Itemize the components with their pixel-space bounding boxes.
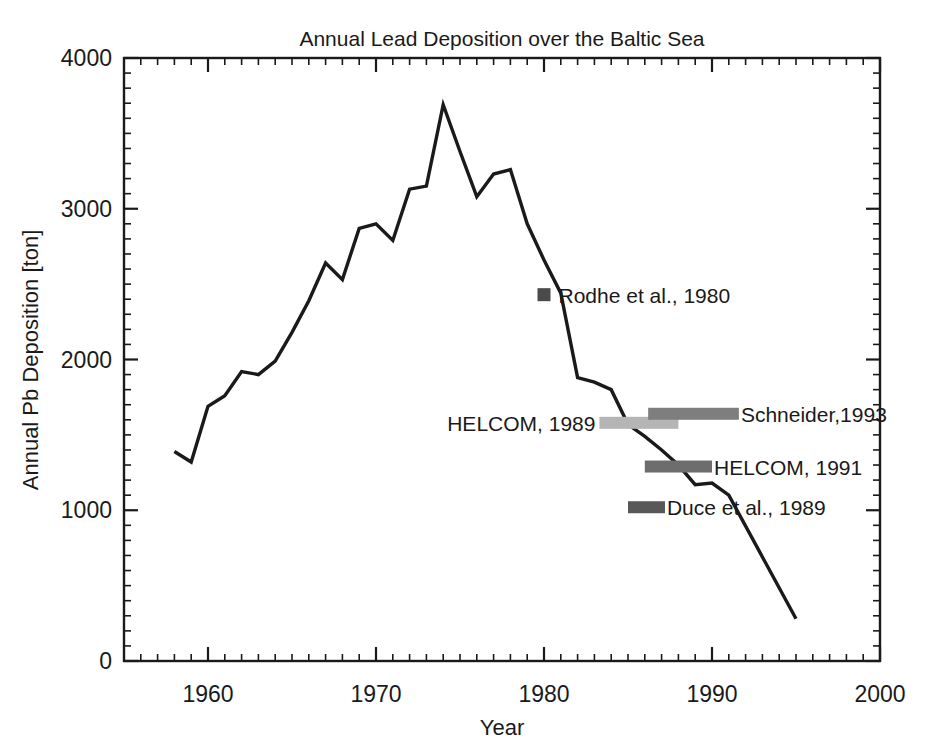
- y-tick-label: 3000: [61, 196, 112, 222]
- x-axis-tick-labels: 19601970198019902000: [182, 681, 905, 707]
- annotation-label: Schneider,1993: [741, 403, 887, 426]
- annotation-schneider-1993: Schneider,1993: [648, 403, 887, 426]
- figure-container: Annual Lead Deposition over the Baltic S…: [0, 0, 930, 743]
- lead-deposition-chart: Annual Lead Deposition over the Baltic S…: [0, 0, 930, 743]
- annotation-label: Rodhe et al., 1980: [559, 284, 731, 307]
- deposition-line: [174, 105, 796, 619]
- annotation-helcom-1989: HELCOM, 1989: [447, 412, 678, 435]
- x-tick-label: 1960: [182, 681, 233, 707]
- annotation-marker-bar: [628, 501, 665, 513]
- y-tick-label: 1000: [61, 497, 112, 523]
- annotation-helcom-1991: HELCOM, 1991: [645, 456, 862, 479]
- annotation-rodhe-1980: Rodhe et al., 1980: [538, 284, 731, 307]
- y-tick-label: 2000: [61, 347, 112, 373]
- annotation-marker-square: [538, 288, 551, 301]
- annotation-label: HELCOM, 1991: [714, 456, 862, 479]
- x-tick-label: 1990: [686, 681, 737, 707]
- chart-title: Annual Lead Deposition over the Baltic S…: [299, 27, 704, 50]
- x-tick-label: 1970: [350, 681, 401, 707]
- x-tick-label: 1980: [518, 681, 569, 707]
- y-tick-label: 4000: [61, 45, 112, 71]
- annotation-label: Duce et al., 1989: [667, 496, 826, 519]
- annotation-marker-bar: [648, 408, 739, 420]
- annotation-label: HELCOM, 1989: [447, 412, 595, 435]
- x-axis-ticks: [124, 58, 880, 661]
- annotation-layer: Rodhe et al., 1980HELCOM, 1989Schneider,…: [447, 284, 887, 520]
- annotation-marker-bar: [645, 461, 712, 473]
- y-axis-ticks: [124, 58, 880, 661]
- annotation-duce-1989: Duce et al., 1989: [628, 496, 826, 519]
- x-tick-label: 2000: [854, 681, 905, 707]
- x-axis-title: Year: [480, 715, 524, 740]
- plot-frame: [124, 58, 880, 661]
- y-axis-tick-labels: 01000200030004000: [61, 45, 112, 674]
- y-axis-title: Annual Pb Deposition [ton]: [18, 230, 43, 491]
- y-tick-label: 0: [99, 648, 112, 674]
